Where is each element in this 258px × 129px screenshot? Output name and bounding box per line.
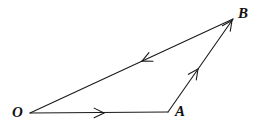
vector-triangle-svg bbox=[0, 0, 258, 129]
figure-canvas: O A B bbox=[0, 0, 258, 129]
vertex-label-o: O bbox=[12, 105, 23, 120]
edge-BO bbox=[30, 19, 233, 113]
triangle-edges bbox=[30, 19, 233, 113]
edge-OA-arrowhead-barb-0 bbox=[94, 113, 104, 118]
edge-OA bbox=[30, 112, 168, 113]
edge-AB bbox=[168, 19, 233, 112]
vertex-label-b: B bbox=[238, 6, 248, 21]
direction-arrowheads bbox=[94, 20, 232, 117]
vertex-label-a: A bbox=[175, 104, 185, 119]
